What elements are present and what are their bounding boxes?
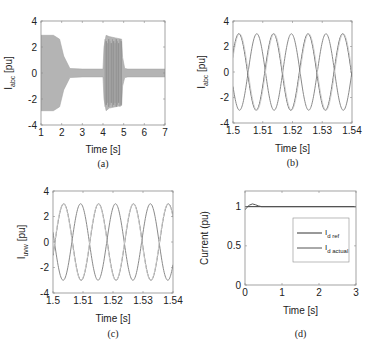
y-tick-label: 0 <box>223 67 229 78</box>
subplot-caption: (c) <box>107 328 118 340</box>
plot-area <box>41 35 165 110</box>
x-tick-label: 1.54 <box>342 125 362 136</box>
y-tick-label: 0 <box>43 237 49 248</box>
x-axis-label: Time [s] <box>85 144 120 155</box>
x-tick-label: 1 <box>279 287 285 298</box>
subplot-caption: (b) <box>287 157 299 169</box>
y-tick-label: -2 <box>40 262 49 273</box>
x-tick-label: 1.53 <box>313 125 333 136</box>
y-tick-label: 4 <box>223 16 229 27</box>
current-envelope <box>41 35 165 110</box>
x-tick-label: 5 <box>121 127 127 138</box>
x-tick-label: 1.53 <box>133 295 153 306</box>
plot-area <box>233 34 352 111</box>
x-tick-label: 1.51 <box>253 125 273 136</box>
x-tick-label: 7 <box>162 127 168 138</box>
series-phase-b <box>233 34 352 111</box>
subplot-a: 1234567-4-2024Time [s]Iabc [pu](a) <box>3 16 168 171</box>
plot-area <box>53 204 173 281</box>
subplot-d: 012300.51Time [s]Current (pu)(d)Id refId… <box>199 191 359 340</box>
y-axis-label: Iabc [pu] <box>3 56 16 90</box>
x-tick-label: 1.54 <box>163 295 183 306</box>
figure: 1234567-4-2024Time [s]Iabc [pu](a) 1.51.… <box>0 0 377 357</box>
y-axis-label: Iabc [pu] <box>196 55 209 89</box>
y-axis-label: Iuvw [pu] <box>16 224 29 259</box>
subplot-c: 1.51.511.521.531.54-4-2024Time [s]Iuvw [… <box>16 186 183 341</box>
y-tick-label: 2 <box>223 41 229 52</box>
y-tick-label: -4 <box>40 288 49 299</box>
x-tick-label: 1.52 <box>283 125 303 136</box>
y-tick-label: -4 <box>220 118 229 129</box>
y-tick-label: 1 <box>235 201 241 212</box>
subplot-caption: (a) <box>97 158 108 170</box>
x-axis-label: Time [s] <box>275 143 310 154</box>
y-tick-label: 2 <box>43 211 49 222</box>
x-axis-label: Time [s] <box>283 305 318 316</box>
x-tick-label: 2 <box>59 127 65 138</box>
y-tick-label: 0.5 <box>227 240 241 251</box>
y-axis-label: Current (pu) <box>199 211 210 265</box>
x-axis-label: Time [s] <box>95 313 130 324</box>
y-tick-label: 4 <box>43 186 49 197</box>
subplot-b: 1.51.511.521.531.54-4-2024Time [s]Iabc [… <box>196 16 362 170</box>
x-tick-label: 4 <box>100 127 106 138</box>
y-tick-label: 2 <box>31 42 37 53</box>
x-tick-label: 3 <box>80 127 86 138</box>
y-tick-label: 0 <box>235 280 241 291</box>
y-tick-label: 4 <box>31 16 37 27</box>
x-tick-label: 1 <box>38 127 44 138</box>
legend: Id refId actual <box>293 218 349 262</box>
y-tick-label: -2 <box>220 92 229 103</box>
plot-area <box>245 204 356 210</box>
y-tick-label: -4 <box>28 120 37 131</box>
y-tick-label: -2 <box>28 94 37 105</box>
x-tick-label: 2 <box>316 287 322 298</box>
subplot-caption: (d) <box>295 328 307 340</box>
series-i-d-actual <box>245 204 356 210</box>
x-tick-label: 6 <box>142 127 148 138</box>
x-tick-label: 1.51 <box>73 295 93 306</box>
x-tick-label: 3 <box>353 287 359 298</box>
y-tick-label: 0 <box>31 68 37 79</box>
x-tick-label: 1.52 <box>103 295 123 306</box>
x-tick-label: 0 <box>242 287 248 298</box>
